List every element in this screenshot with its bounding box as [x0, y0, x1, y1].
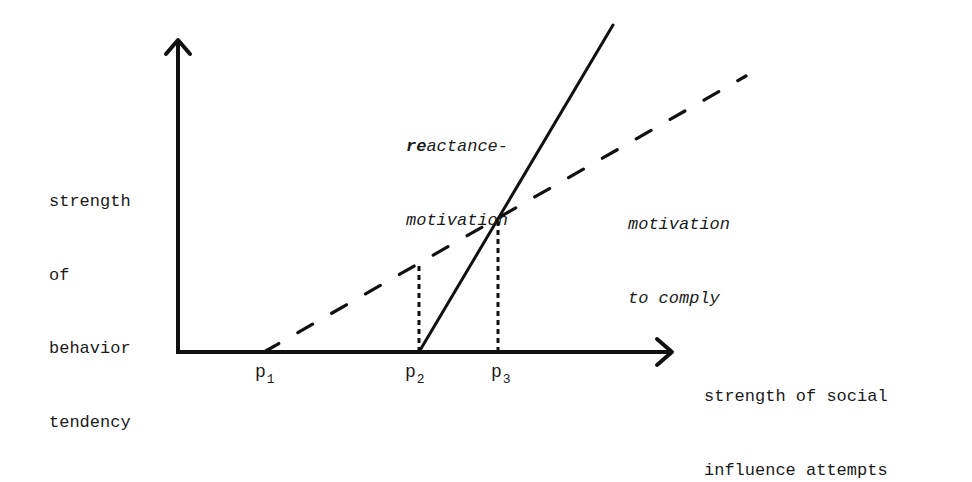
x-axis-label-line: strength of social — [704, 385, 888, 410]
reactance-label-rest: actance- — [426, 137, 508, 156]
comply-label: motivation to comply — [628, 164, 730, 360]
y-axis-label-line: strength — [49, 190, 131, 215]
reactance-label-line1: reactance- — [406, 135, 508, 160]
y-axis-label: strength of behavior tendency — [49, 141, 131, 482]
tick-subscript: 2 — [417, 372, 425, 387]
reactance-label-bold-prefix: re — [406, 137, 426, 156]
x-axis-label-line: influence attempts — [704, 459, 888, 482]
tick-subscript: 1 — [267, 372, 275, 387]
reactance-label-line2: motivation — [406, 209, 508, 234]
tick-p2: p2 — [405, 362, 425, 387]
tick-base: p — [405, 362, 416, 382]
x-axis-label: strength of social influence attempts — [704, 336, 888, 482]
tick-base: p — [255, 362, 266, 382]
tick-p1: p1 — [255, 362, 275, 387]
reactance-label: reactance- motivation — [406, 86, 508, 282]
y-axis-label-line: of — [49, 264, 131, 289]
comply-label-line2: to comply — [628, 287, 730, 312]
y-axis-label-line: behavior — [49, 337, 131, 362]
tick-base: p — [491, 362, 502, 382]
tick-subscript: 3 — [503, 372, 511, 387]
comply-label-line1: motivation — [628, 213, 730, 238]
tick-p3: p3 — [491, 362, 511, 387]
y-axis-label-line: tendency — [49, 411, 131, 436]
